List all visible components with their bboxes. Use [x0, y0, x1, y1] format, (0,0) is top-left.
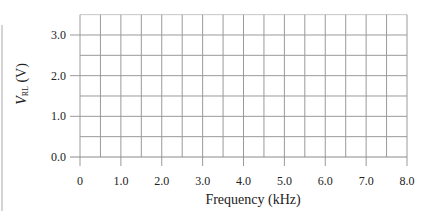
y-axis-subscript: RL [21, 86, 30, 96]
y-axis-label: VRL (V) [14, 63, 30, 105]
x-tick-label: 4.0 [236, 174, 251, 189]
x-tick-label: 0 [77, 174, 83, 189]
x-tick-label: 7.0 [359, 174, 374, 189]
x-tick-label: 6.0 [318, 174, 333, 189]
x-tick-label: 1.0 [113, 174, 128, 189]
y-tick-label: 2.0 [36, 68, 66, 83]
x-axis-label: Frequency (kHz) [205, 192, 300, 208]
x-tick-label: 3.0 [195, 174, 210, 189]
y-tick-label: 3.0 [36, 27, 66, 42]
chart: VRL (V) 0.01.02.03.0 01.02.03.04.05.06.0… [0, 0, 435, 218]
x-tick-label: 5.0 [277, 174, 292, 189]
y-tick-label: 0.0 [36, 150, 66, 165]
y-tick-label: 1.0 [36, 109, 66, 124]
y-axis-unit: (V) [14, 63, 29, 82]
x-tick-label: 2.0 [154, 174, 169, 189]
y-axis-symbol: V [14, 96, 29, 105]
x-tick-label: 8.0 [400, 174, 415, 189]
